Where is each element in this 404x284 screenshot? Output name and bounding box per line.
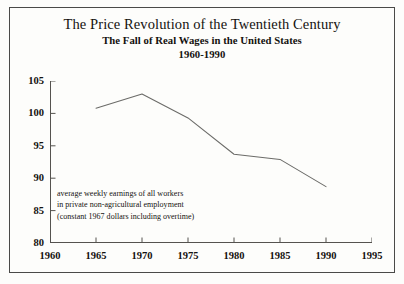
y-tick-label: 85 (14, 205, 44, 216)
chart-date-range: 1960-1990 (0, 47, 404, 61)
chart-figure: The Price Revolution of the Twentieth Ce… (0, 0, 404, 284)
y-tick-label: 90 (14, 172, 44, 183)
y-tick-label: 100 (14, 107, 44, 118)
x-tick-label: 1990 (303, 250, 349, 261)
annotation-line: average weekly earnings of all workers (57, 188, 194, 199)
chart-annotation: average weekly earnings of all workersin… (57, 188, 194, 222)
title-block: The Price Revolution of the Twentieth Ce… (0, 16, 404, 61)
y-tick-label: 80 (14, 237, 44, 248)
data-series-line (96, 94, 326, 187)
x-tick-label: 1985 (257, 250, 303, 261)
x-tick-label: 1995 (349, 250, 395, 261)
x-tick-label: 1960 (27, 250, 73, 261)
x-tick-label: 1970 (119, 250, 165, 261)
y-tick-label: 105 (14, 75, 44, 86)
x-tick-label: 1980 (211, 250, 257, 261)
y-tick-label: 95 (14, 140, 44, 151)
x-tick-label: 1975 (165, 250, 211, 261)
annotation-line: in private non-agricultural employment (57, 199, 194, 210)
chart-subtitle: The Fall of Real Wages in the United Sta… (0, 33, 404, 47)
x-tick-label: 1965 (73, 250, 119, 261)
annotation-line: (constant 1967 dollars including overtim… (57, 211, 194, 222)
chart-title: The Price Revolution of the Twentieth Ce… (0, 16, 404, 33)
